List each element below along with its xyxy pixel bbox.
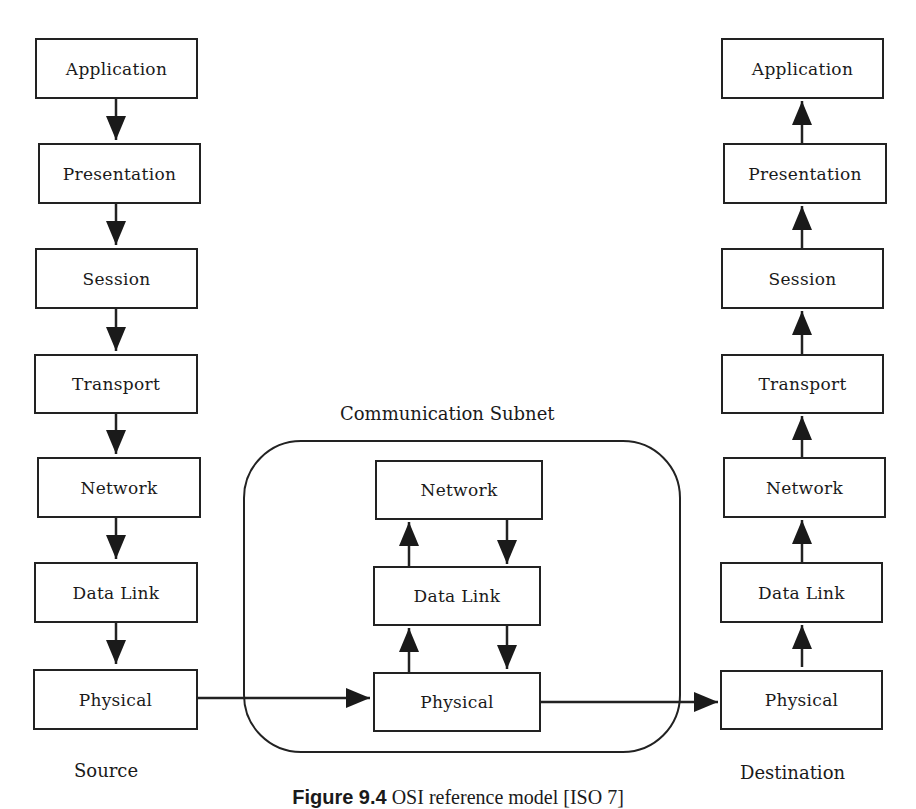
subnet-layer-data-link: Data Link bbox=[373, 566, 541, 626]
figure-caption-text: OSI reference model [ISO 7] bbox=[392, 786, 624, 808]
subnet-label: Communication Subnet bbox=[340, 403, 555, 424]
source-layer-network: Network bbox=[37, 457, 201, 518]
figure-caption: Figure 9.4 OSI reference model [ISO 7] bbox=[0, 786, 916, 809]
dest-layer-network: Network bbox=[723, 457, 886, 518]
subnet-layer-physical: Physical bbox=[373, 672, 541, 732]
figure-number: Figure 9.4 bbox=[292, 786, 386, 808]
source-layer-data-link: Data Link bbox=[34, 562, 198, 623]
dest-layer-transport: Transport bbox=[721, 354, 884, 414]
dest-layer-presentation: Presentation bbox=[723, 143, 887, 204]
destination-label: Destination bbox=[740, 762, 845, 783]
dest-layer-application: Application bbox=[721, 38, 884, 99]
source-layer-physical: Physical bbox=[33, 669, 198, 730]
dest-layer-physical: Physical bbox=[720, 670, 883, 730]
dest-layer-session: Session bbox=[721, 248, 884, 309]
source-label: Source bbox=[74, 760, 138, 781]
source-layer-transport: Transport bbox=[34, 354, 198, 414]
source-layer-application: Application bbox=[35, 38, 198, 99]
subnet-layer-network: Network bbox=[375, 460, 543, 520]
source-layer-presentation: Presentation bbox=[38, 143, 201, 204]
dest-layer-data-link: Data Link bbox=[720, 562, 883, 623]
source-layer-session: Session bbox=[35, 248, 198, 309]
